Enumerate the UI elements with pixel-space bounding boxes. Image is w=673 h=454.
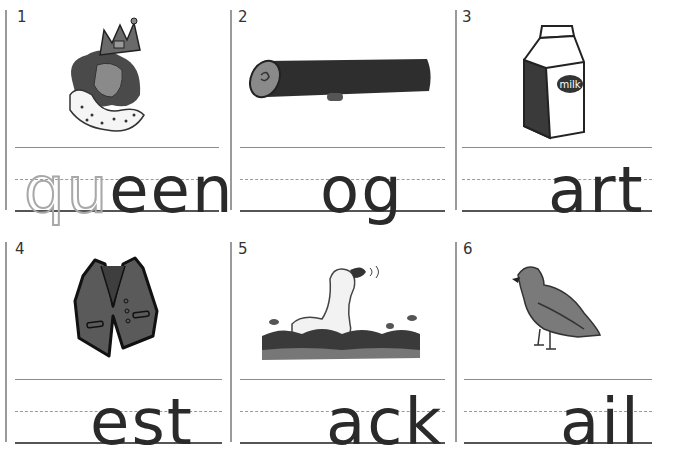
writing-line-top [462,147,652,148]
word-ending: og [320,153,404,227]
quail-picture-icon [508,263,603,355]
cell-number: 6 [463,240,473,258]
log-picture-icon [247,55,432,105]
duck-picture-icon [262,264,420,362]
queen-picture-icon [62,15,162,135]
word-answer: queen [24,158,235,222]
writing-line-top [240,379,445,380]
cell-number: 5 [238,240,248,258]
traced-letters: qu [24,153,109,227]
cell-divider [230,242,232,442]
word-ending: ack [326,385,443,454]
word-answer: est [90,390,194,454]
writing-line-top [15,147,219,148]
word-ending: art [548,153,645,227]
writing-line-top [15,379,222,380]
cell-divider [5,10,7,210]
cell-divider [455,242,457,442]
word-ending: est [90,385,194,454]
cell-number: 2 [238,8,248,26]
writing-line-top [240,147,445,148]
cell-divider [455,10,457,210]
cell-divider [230,10,232,210]
cell-number: 4 [15,240,25,258]
vest-picture-icon [73,256,165,361]
word-ending: ail [560,385,641,454]
word-answer: og [320,158,404,222]
word-ending: een [109,153,234,227]
word-answer: ack [326,390,443,454]
word-answer: ail [560,390,641,454]
cell-number: 1 [17,8,27,26]
writing-line-top [464,379,652,380]
milk-carton-picture-icon: milk [520,22,590,140]
svg-text:milk: milk [559,79,580,90]
cell-number: 3 [462,8,472,26]
word-answer: art [548,158,645,222]
cell-divider [5,242,7,442]
